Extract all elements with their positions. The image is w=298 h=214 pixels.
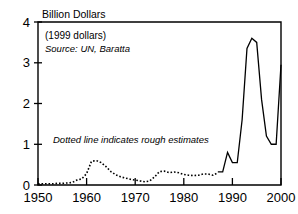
line-chart: 0 1 2 3 4 1950 1960 1970 1980 1990 2000 … [0,0,298,214]
chart-title: Billion Dollars [42,8,106,20]
series-group [38,38,281,183]
x-tick-label-2000: 2000 [267,190,296,205]
chart-container: 0 1 2 3 4 1950 1960 1970 1980 1990 2000 … [0,0,298,214]
x-axis-ticks [38,178,281,185]
series-rough-estimates [38,161,218,184]
y-tick-label-2: 2 [23,96,30,111]
chart-source: Source: UN, Baratta [45,43,130,54]
x-tick-label-1950: 1950 [24,190,53,205]
x-tick-label-1970: 1970 [121,190,150,205]
chart-subtitle: (1999 dollars) [45,30,106,41]
y-tick-label-4: 4 [23,15,30,30]
x-tick-labels: 1950 1960 1970 1980 1990 2000 [24,190,296,205]
x-tick-label-1980: 1980 [169,190,198,205]
y-tick-label-1: 1 [23,137,30,152]
chart-annotation: Dotted line indicates rough estimates [53,134,209,145]
y-tick-labels: 0 1 2 3 4 [23,15,30,193]
x-tick-label-1960: 1960 [72,190,101,205]
y-tick-label-3: 3 [23,55,30,70]
x-tick-label-1990: 1990 [218,190,247,205]
series-reported [218,38,281,172]
